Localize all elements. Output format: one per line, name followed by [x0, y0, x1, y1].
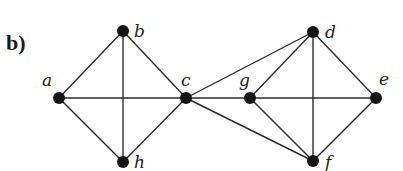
- vertex-label-f: f: [323, 152, 334, 171]
- vertex-label-b: b: [134, 21, 145, 41]
- vertex-label-g: g: [239, 70, 250, 90]
- edge-b-c: [123, 31, 186, 98]
- vertex-c: [180, 92, 192, 104]
- vertex-label-d: d: [325, 22, 336, 42]
- vertex-h: [117, 156, 129, 168]
- vertex-label-a: a: [42, 70, 52, 90]
- vertex-b: [117, 25, 129, 37]
- vertex-label-e: e: [379, 69, 389, 89]
- vertex-e: [370, 92, 382, 104]
- graph-figure: b) abcgdefh: [0, 0, 403, 171]
- edge-layer: [59, 31, 376, 162]
- edge-e-f: [313, 98, 376, 161]
- edge-a-b: [59, 31, 123, 98]
- edge-c-f: [186, 98, 313, 161]
- vertex-f: [307, 155, 319, 167]
- vertex-label-c: c: [181, 70, 191, 90]
- vertex-d: [307, 26, 319, 38]
- edge-g-f: [250, 98, 313, 161]
- vertex-g: [244, 92, 256, 104]
- edge-d-e: [313, 32, 376, 98]
- edge-c-h: [123, 98, 186, 162]
- edge-d-g: [250, 32, 313, 98]
- vertex-a: [53, 92, 65, 104]
- graph-diagram: b) abcgdefh: [0, 0, 403, 171]
- vertex-label-layer: abcgdefh: [42, 21, 389, 171]
- edge-a-h: [59, 98, 123, 162]
- vertex-label-h: h: [134, 152, 145, 171]
- vertex-layer: [53, 25, 382, 168]
- panel-label: b): [6, 30, 26, 55]
